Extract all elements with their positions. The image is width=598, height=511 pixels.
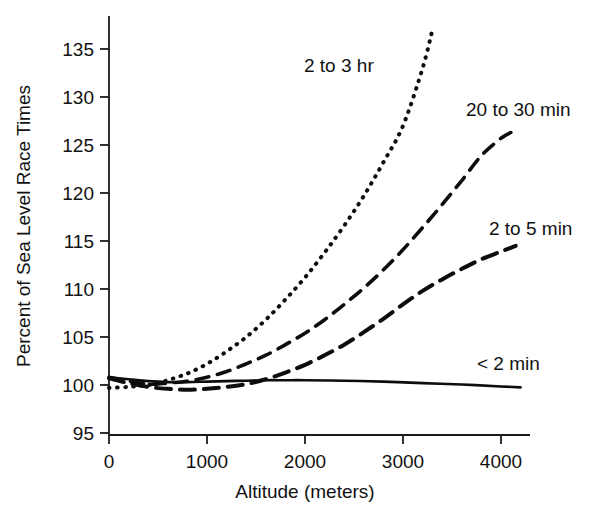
y-axis-tick-labels: 135 130 125 120 115 110 105 100 95 (62, 39, 94, 444)
x-tick-label: 3000 (382, 451, 424, 472)
x-axis-title: Altitude (meters) (235, 481, 374, 502)
y-tick-label: 115 (64, 231, 94, 252)
y-tick-label: 95 (73, 423, 94, 444)
series-label-2-to-5-min: 2 to 5 min (489, 218, 572, 239)
series-label-20-to-30-min: 20 to 30 min (466, 99, 571, 120)
y-tick-label: 105 (62, 327, 94, 348)
chart-figure: 135 130 125 120 115 110 105 100 95 0 100… (0, 0, 598, 511)
x-tick-label: 0 (104, 451, 115, 472)
series-label-2-to-3-hr: 2 to 3 hr (304, 55, 374, 76)
x-tick-label: 2000 (284, 451, 326, 472)
y-tick-label: 125 (62, 135, 94, 156)
x-tick-label: 4000 (480, 451, 522, 472)
y-tick-label: 135 (62, 39, 94, 60)
series-label-under-2-min: < 2 min (477, 353, 540, 374)
y-tick-label: 120 (62, 183, 94, 204)
x-tick-label: 1000 (186, 451, 228, 472)
y-axis-title: Percent of Sea Level Race Times (13, 85, 34, 367)
y-tick-label: 130 (62, 87, 94, 108)
race-time-altitude-line-chart: 135 130 125 120 115 110 105 100 95 0 100… (0, 0, 598, 511)
y-tick-label: 110 (64, 279, 94, 300)
y-tick-label: 100 (62, 375, 94, 396)
